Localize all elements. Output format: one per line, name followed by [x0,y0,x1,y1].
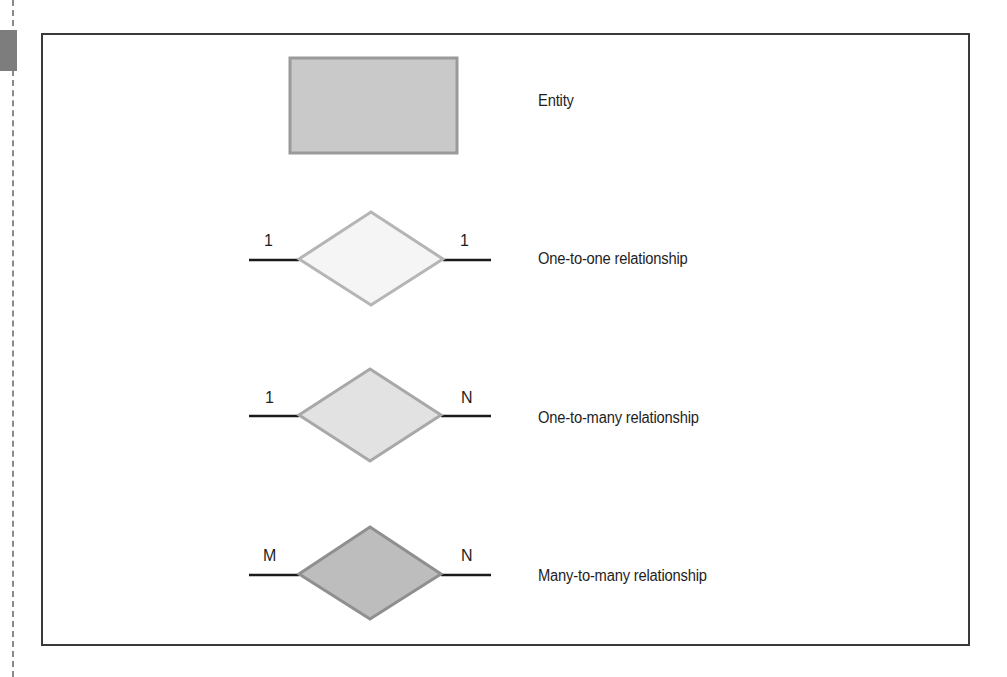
entity-label: Entity [538,92,574,110]
many-to-many-symbol [249,527,491,619]
er-notation-diagram [0,0,1007,677]
cardinality-right-one-to-many: N [461,389,473,407]
cardinality-right-one-to-one: 1 [460,232,469,250]
relationship-diamond [299,527,441,619]
many-to-many-label: Many-to-many relationship [538,567,707,585]
one-to-many-label: One-to-many relationship [538,409,699,427]
entity-symbol [290,58,457,153]
cardinality-left-one-to-one: 1 [264,232,273,250]
cardinality-right-many-to-many: N [461,547,473,565]
one-to-one-label: One-to-one relationship [538,250,688,268]
cardinality-left-one-to-many: 1 [265,389,274,407]
one-to-many-symbol [249,369,491,461]
relationship-diamond [299,369,441,461]
one-to-one-symbol [249,212,491,305]
relationship-diamond [299,212,443,305]
cardinality-left-many-to-many: M [263,547,276,565]
